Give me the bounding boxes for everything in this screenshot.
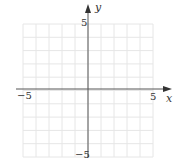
x-axis-label: x xyxy=(166,93,172,104)
x-max-tick-label: 5 xyxy=(150,92,156,102)
grid-and-axes xyxy=(0,0,181,162)
x-min-tick-label: −5 xyxy=(17,91,32,101)
y-min-tick-label: −5 xyxy=(75,150,90,160)
y-max-tick-label: 5 xyxy=(81,18,87,28)
y-axis-label: y xyxy=(95,2,101,13)
y-axis-arrow-icon xyxy=(85,4,91,13)
